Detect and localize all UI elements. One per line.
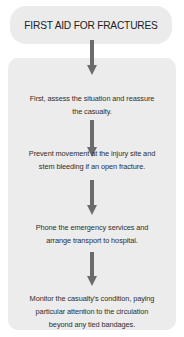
step-1-line-2: the casualty.: [0, 105, 184, 118]
step-1-line-1: First, assess the situation and reassure: [0, 92, 184, 105]
step-1: First, assess the situation and reassure…: [0, 92, 184, 118]
step-4-line-3: beyond any tied bandages.: [0, 318, 184, 331]
step-3-line-2: arrange transport to hospital.: [0, 234, 184, 247]
step-3: Phone the emergency services and arrange…: [0, 221, 184, 247]
step-2-line-2: stem bleeding if an open fracture.: [0, 160, 184, 173]
diagram-title-box: FIRST AID FOR FRACTURES: [10, 6, 172, 44]
step-4: Monitor the casualty's condition, paying…: [0, 292, 184, 331]
down-arrow-icon: [88, 180, 96, 218]
step-3-line-1: Phone the emergency services and: [0, 221, 184, 234]
step-4-line-2: particular attention to the circulation: [0, 305, 184, 318]
step-2-line-1: Prevent movement at the injury site and: [0, 147, 184, 160]
step-2: Prevent movement at the injury site and …: [0, 147, 184, 173]
diagram-title: FIRST AID FOR FRACTURES: [24, 20, 157, 31]
step-4-line-1: Monitor the casualty's condition, paying: [0, 292, 184, 305]
down-arrow-icon: [88, 252, 96, 290]
down-arrow-icon: [88, 40, 96, 75]
